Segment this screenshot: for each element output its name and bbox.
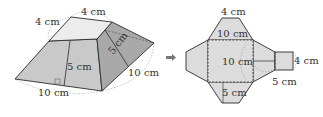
right-face — [97, 22, 154, 91]
label-net-square: 10 cm — [222, 56, 254, 67]
label-slant-front: 5 cm — [67, 61, 92, 72]
frustum-diagram: 4 cm 4 cm 5 cm 5 cm 10 cm 10 cm 4 cm 10 … — [0, 0, 323, 117]
label-base-front: 10 cm — [38, 87, 70, 98]
label-top-left: 4 cm — [35, 16, 60, 27]
net-face-left — [186, 40, 208, 82]
label-base-right: 10 cm — [128, 67, 160, 78]
label-net-bottom-slant: 5 cm — [222, 87, 247, 98]
frustum-net: 4 cm 10 cm 10 cm 4 cm 5 cm 5 cm — [186, 6, 319, 103]
label-top-back: 4 cm — [81, 6, 106, 17]
frustum-solid: 4 cm 4 cm 5 cm 5 cm 10 cm 10 cm — [15, 6, 160, 98]
label-net-right-small: 4 cm — [294, 55, 319, 66]
net-top-square — [275, 52, 293, 70]
label-net-top-small: 4 cm — [221, 6, 246, 17]
label-net-right-slant: 5 cm — [272, 76, 297, 87]
arrow-right-icon — [166, 54, 176, 61]
label-net-top-base: 10 cm — [217, 28, 249, 39]
